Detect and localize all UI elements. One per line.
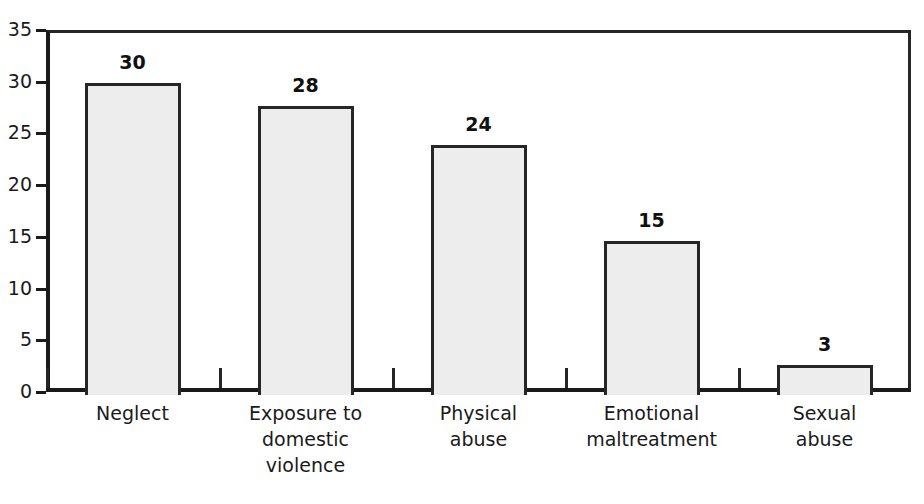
y-axis-tick-label: 0 bbox=[0, 382, 32, 401]
y-axis-tick-label: 25 bbox=[0, 123, 32, 142]
y-axis-tick-mark bbox=[36, 132, 46, 135]
bar-value-label: 3 bbox=[818, 335, 831, 354]
x-axis-category-label: Sexual abuse bbox=[793, 400, 857, 452]
bar bbox=[604, 241, 700, 395]
x-axis-tick-divider bbox=[219, 368, 222, 388]
x-axis-category-label: Neglect bbox=[96, 400, 169, 426]
y-axis-tick-mark bbox=[36, 236, 46, 239]
bar-value-label: 28 bbox=[292, 76, 318, 95]
y-axis-tick-mark bbox=[36, 391, 46, 394]
bar bbox=[258, 106, 354, 395]
y-axis-tick-label: 35 bbox=[0, 20, 32, 39]
bar bbox=[777, 365, 873, 395]
y-axis-tick-mark bbox=[36, 339, 46, 342]
x-axis-tick-divider bbox=[908, 368, 911, 388]
y-axis-tick-mark bbox=[36, 288, 46, 291]
x-axis-category-label: Physical abuse bbox=[440, 400, 517, 452]
x-axis-tick-divider bbox=[565, 368, 568, 388]
x-axis-tick-divider bbox=[392, 368, 395, 388]
y-axis-tick-label: 20 bbox=[0, 175, 32, 194]
bar-value-label: 24 bbox=[465, 115, 491, 134]
x-axis-category-label: Emotional maltreatment bbox=[586, 400, 717, 452]
y-axis-tick-label: 30 bbox=[0, 72, 32, 91]
bar bbox=[85, 83, 181, 395]
bar bbox=[431, 145, 527, 395]
bar-chart: 05101520253035 302824153 NeglectExposure… bbox=[0, 0, 924, 504]
bar-value-label: 15 bbox=[638, 211, 664, 230]
y-axis-tick-mark bbox=[36, 81, 46, 84]
y-axis-tick-label: 15 bbox=[0, 227, 32, 246]
x-axis-tick-divider bbox=[46, 368, 49, 388]
bar-value-label: 30 bbox=[119, 53, 145, 72]
plot-area bbox=[46, 30, 911, 392]
y-axis-tick-mark bbox=[36, 29, 46, 32]
x-axis-tick-divider bbox=[738, 368, 741, 388]
y-axis-tick-mark bbox=[36, 184, 46, 187]
y-axis-tick-label: 10 bbox=[0, 279, 32, 298]
y-axis-tick-label: 5 bbox=[0, 330, 32, 349]
x-axis-category-label: Exposure to domestic violence bbox=[249, 400, 362, 478]
